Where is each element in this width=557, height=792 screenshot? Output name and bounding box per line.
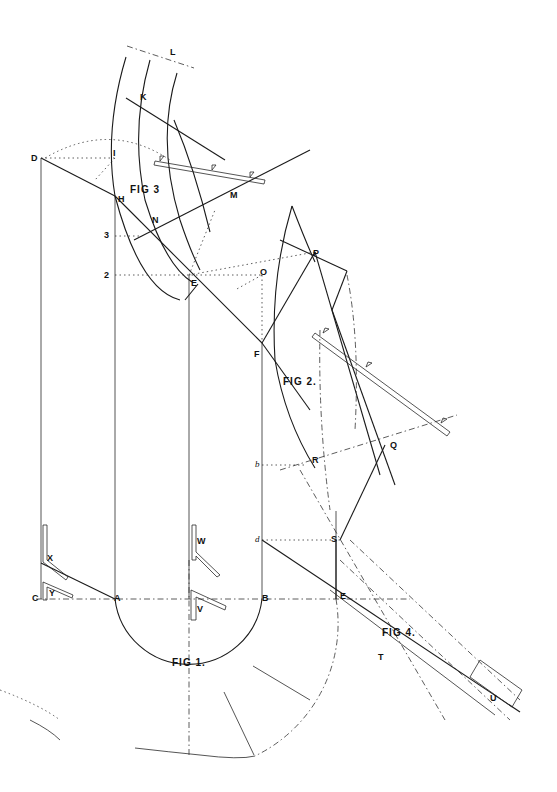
label-O: O [260, 267, 267, 277]
fig1-geometry [0, 599, 338, 758]
label-W: W [197, 536, 206, 546]
label-U: U [490, 693, 497, 703]
mark-d: d [255, 534, 260, 544]
point-labels: D I H K L M N E O P F Q R S E C A B T U … [31, 47, 497, 703]
label-H: H [118, 194, 125, 204]
label-A: A [114, 593, 121, 603]
label-Q: Q [390, 440, 397, 450]
label-L: L [170, 47, 176, 57]
label-V: V [197, 604, 203, 614]
label-X: X [47, 553, 53, 563]
label-B: B [262, 593, 269, 603]
mark-3: 3 [104, 230, 109, 240]
label-E-top: E [191, 278, 197, 288]
label-D: D [31, 153, 38, 163]
fig1-label: FIG 1. [172, 657, 206, 668]
label-T: T [378, 652, 384, 662]
technical-drawing: FIG 3 FIG 2. FIG 1. FIG 4. D I H K L M N… [0, 0, 557, 792]
fig4-label: FIG 4. [382, 627, 416, 638]
label-F: F [254, 349, 260, 359]
fig3-geometry [41, 46, 310, 300]
label-M: M [230, 190, 238, 200]
label-R: R [312, 455, 319, 465]
fig2-label: FIG 2. [283, 376, 317, 387]
baseline [36, 560, 410, 756]
scale-marks: 3 2 b d [104, 230, 260, 544]
label-N: N [152, 215, 159, 225]
mark-b: b [255, 459, 260, 469]
fig4-geometry [300, 470, 522, 720]
label-C: C [32, 593, 39, 603]
label-S: S [331, 534, 337, 544]
mark-2: 2 [104, 270, 109, 280]
fig2-geometry [189, 206, 457, 540]
label-K: K [140, 92, 147, 102]
fig3-label: FIG 3 [130, 184, 160, 195]
label-I: I [113, 148, 116, 158]
label-Y: Y [49, 588, 55, 598]
label-P: P [313, 248, 319, 258]
label-E-bottom: E [340, 591, 346, 601]
